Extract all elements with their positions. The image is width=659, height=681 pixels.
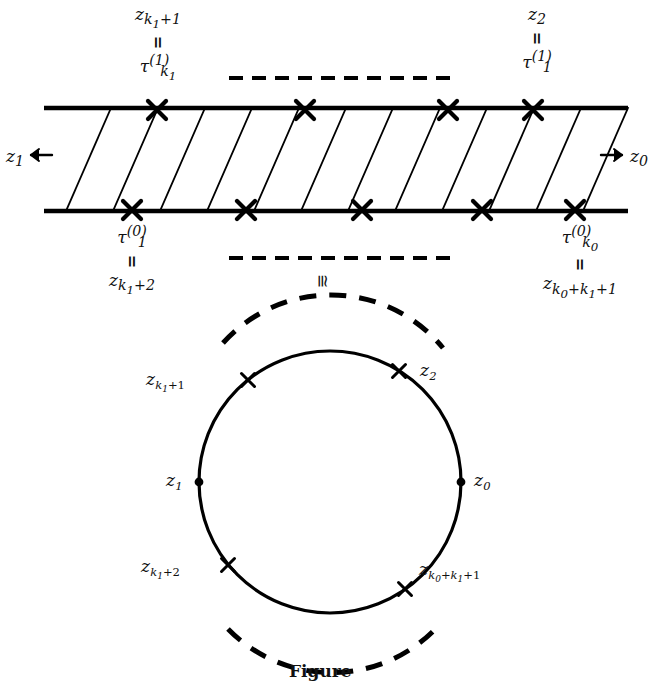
circle-label-z0: z0 [474, 472, 491, 492]
strip-slant-lines [66, 108, 628, 211]
equals-sign: = [572, 258, 588, 270]
dashed-arc-top [223, 295, 443, 348]
strip-label-top-left-lower: τ(1)k1 [140, 53, 177, 82]
equals-sign: = [150, 35, 166, 47]
strip-label-top-right-lower: τ(1)1 [522, 49, 551, 75]
arrow-right-icon [601, 149, 622, 161]
circle-cross-markers [222, 365, 412, 596]
equals-sign: = [124, 255, 140, 267]
circle-label-z1: z1 [166, 472, 183, 492]
congruence-symbol: ≅ [313, 274, 333, 288]
strip-right-arrow-label: z0 [630, 146, 648, 169]
strip-label-bottom-left-upper: τ(0)1 [117, 224, 146, 250]
circle-label-zk1p1: zk1+1 [146, 371, 185, 393]
strip-left-arrow-label: z1 [6, 146, 24, 169]
strip-label-bottom-left: τ(0)1 = zk1+2 [82, 224, 182, 297]
strip-label-bottom-left-lower: zk1+2 [109, 272, 155, 297]
strip-label-bottom-right-lower: zk0+k1+1 [543, 275, 617, 300]
strip-label-top-right-upper: z2 [528, 6, 546, 27]
arrow-left-icon [31, 149, 52, 161]
figure-caption: Figure [289, 661, 352, 681]
circle-dot-markers [195, 478, 466, 487]
circle-label-zk0k1p1: zk0+k1+1 [419, 561, 480, 583]
strip-label-top-right: z2 = τ(1)1 [492, 6, 582, 75]
strip-label-bottom-right: τ(0)k0 = zk0+k1+1 [516, 224, 644, 300]
dot-marker-icon-z0 [457, 478, 466, 487]
equals-sign: = [529, 32, 545, 44]
strip-label-top-left: zk1+1 = τ(1)k1 [108, 6, 208, 82]
circle-label-zk1p2: zk1+2 [141, 558, 180, 580]
circle-label-z2: z2 [420, 362, 437, 382]
strip-label-bottom-right-upper: τ(0)k0 [562, 224, 599, 253]
strip-label-top-left-upper: zk1+1 [135, 6, 181, 31]
dot-marker-icon-z1 [195, 478, 204, 487]
strip-boundary-lines [44, 108, 628, 211]
